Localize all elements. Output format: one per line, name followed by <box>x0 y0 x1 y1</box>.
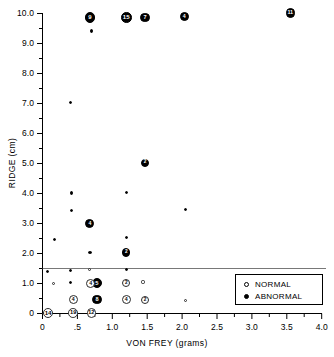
x-tick-label: 2.5 <box>207 322 227 332</box>
x-tick-label: 2.0 <box>172 322 192 332</box>
x-tick-label: 1.5 <box>137 322 157 332</box>
data-point-abnormal: 2 <box>141 159 149 167</box>
y-tick-label: 9.0 <box>2 38 34 48</box>
y-tick-label: 2.0 <box>2 248 34 258</box>
x-tick-label: .5 <box>67 322 87 332</box>
data-point-abnormal: 2 <box>122 248 130 256</box>
data-point-abnormal: 7 <box>140 13 150 23</box>
x-tick-label: 3.5 <box>277 322 297 332</box>
data-point-normal: 19 <box>68 308 78 318</box>
data-point-normal <box>184 299 187 302</box>
data-point-abnormal: 15 <box>121 12 132 23</box>
y-tick-label: 8.0 <box>2 68 34 78</box>
x-tick-label: 4.0 <box>312 322 332 332</box>
data-point-abnormal <box>70 191 73 194</box>
data-point-abnormal: 8 <box>92 295 102 305</box>
y-tick-label: 3.0 <box>2 218 34 228</box>
x-tick-label: 1.0 <box>102 322 122 332</box>
legend-label-normal: NORMAL <box>252 280 291 289</box>
x-tick-label: 0 <box>33 322 53 332</box>
data-point-abnormal: 9 <box>85 12 95 22</box>
y-tick-label: 10.0 <box>2 8 34 18</box>
filled-circle-icon <box>241 294 252 299</box>
y-axis-title: RIDGE (cm) <box>7 113 17 213</box>
data-point-abnormal <box>90 29 93 32</box>
data-point-abnormal <box>53 238 56 241</box>
legend-label-abnormal: ABNORMAL <box>252 292 302 301</box>
y-tick-label: 0 <box>2 308 34 318</box>
data-point-normal: 12 <box>87 308 96 317</box>
data-point-abnormal <box>125 191 128 194</box>
y-tick-label: 7.0 <box>2 98 34 108</box>
data-point-normal <box>88 268 91 271</box>
data-point-abnormal <box>46 270 49 273</box>
legend: NORMAL ABNORMAL <box>235 274 323 305</box>
data-point-abnormal: 4 <box>180 12 189 21</box>
open-circle-icon <box>241 282 252 287</box>
scatter-plot-figure: 10.0 9.0 8.0 7.0 6.0 5.0 4.0 3.0 2.0 1.0… <box>0 0 334 357</box>
data-point-abnormal <box>125 268 128 271</box>
y-tick-label: 1.0 <box>2 278 34 288</box>
legend-item-abnormal: ABNORMAL <box>241 290 322 302</box>
data-point-abnormal: 11 <box>286 8 295 17</box>
legend-item-normal: NORMAL <box>241 278 322 290</box>
x-axis-title: VON FREY (grams) <box>0 338 334 348</box>
data-point-normal <box>141 280 144 283</box>
x-tick-label: 3.0 <box>242 322 262 332</box>
